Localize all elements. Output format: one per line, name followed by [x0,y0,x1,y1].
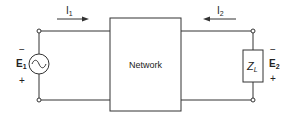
source-minus-sign: − [19,45,25,55]
current-i2-label: I2 [217,6,224,17]
arrow-right-icon [82,17,89,22]
circuit-diagram [0,0,293,116]
sine-wave-icon [32,60,46,68]
terminal-bottom-left [37,98,41,102]
load-plus-sign: + [270,74,276,84]
load-e2-label: E2 [269,59,280,70]
load-minus-sign: − [270,45,276,55]
load-zl-label: ZL [247,61,258,73]
terminal-top-right [251,29,255,33]
current-i1-label: I1 [66,6,73,17]
arrow-left-icon [203,17,210,22]
source-e1-label: E1 [16,59,27,70]
terminal-bottom-right [251,98,255,102]
network-label: Network [129,61,162,70]
terminal-top-left [37,29,41,33]
source-plus-sign: + [19,76,25,86]
